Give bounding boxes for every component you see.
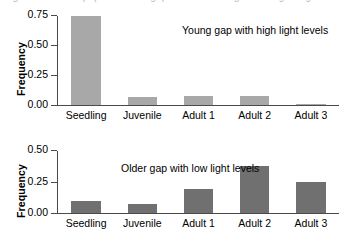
x-axis-line (57, 105, 339, 106)
bar-slot (170, 151, 226, 213)
bar (128, 97, 157, 105)
x-tick-label: Seedling (58, 109, 114, 121)
y-tick-label: 0.75 (28, 8, 48, 20)
panel-annotation: Young gap with high light levels (182, 24, 328, 36)
x-tick-label: Adult 2 (227, 217, 283, 229)
y-tick-label: 0.50 (28, 38, 48, 50)
y-tick: 0.25 (51, 75, 57, 76)
y-axis-title: Frequency (15, 164, 27, 218)
chart-panel-young-gap: Frequency 0.000.250.500.75 Young gap wit… (0, 8, 347, 126)
bar (71, 201, 100, 213)
y-tick: 0.75 (51, 15, 57, 16)
y-tick-label: 0.50 (28, 143, 48, 155)
y-tick-label: 0.25 (28, 175, 48, 187)
x-tick-label-group: SeedlingJuvenileAdult 1Adult 2Adult 3 (58, 109, 339, 121)
bar-slot (227, 151, 283, 213)
x-tick-label: Adult 1 (170, 109, 226, 121)
x-tick-label-group: SeedlingJuvenileAdult 1Adult 2Adult 3 (58, 217, 339, 229)
bar-slot (114, 16, 170, 105)
x-tick-label: Juvenile (114, 109, 170, 121)
bar-slot (283, 151, 339, 213)
bar-slot (58, 16, 114, 105)
x-tick-label: Seedling (58, 217, 114, 229)
bar (184, 96, 213, 105)
x-tick-label: Juvenile (114, 217, 170, 229)
bar (71, 16, 100, 105)
x-tick-label: Adult 1 (170, 217, 226, 229)
y-tick: 0.50 (51, 45, 57, 46)
y-tick-label: 0.00 (28, 206, 48, 218)
cut-off-caption: Age structure of populations in gaps of … (6, 0, 346, 3)
y-tick-label: 0.25 (28, 68, 48, 80)
y-axis-title: Frequency (15, 42, 27, 96)
plot-area: 0.000.250.500.75 Young gap with high lig… (57, 16, 339, 106)
chart-panel-older-gap: Frequency 0.000.250.50 Older gap with lo… (0, 140, 347, 247)
bar (184, 189, 213, 213)
x-tick-label: Adult 3 (283, 109, 339, 121)
bar (296, 182, 325, 213)
bar-slot (114, 151, 170, 213)
x-axis-line (57, 213, 339, 214)
y-tick: 0.50 (51, 150, 57, 151)
bar (296, 104, 325, 105)
bar (240, 96, 269, 105)
bar (128, 204, 157, 213)
y-tick: 0.25 (51, 182, 57, 183)
x-tick-label: Adult 2 (227, 109, 283, 121)
y-tick-label: 0.00 (28, 98, 48, 110)
bar-group (58, 151, 339, 213)
y-tick: 0.00 (51, 213, 57, 214)
x-tick-label: Adult 3 (283, 217, 339, 229)
panel-annotation: Older gap with low light levels (121, 162, 259, 174)
plot-area: 0.000.250.50 Older gap with low light le… (57, 151, 339, 214)
bar-slot (58, 151, 114, 213)
y-tick: 0.00 (51, 105, 57, 106)
